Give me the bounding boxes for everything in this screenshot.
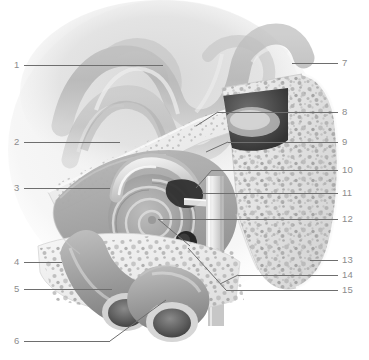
leader-angle-10: [196, 170, 212, 188]
angled-leader-lines: [0, 0, 369, 360]
leader-angle-14: [220, 275, 238, 284]
leader-angle-9: [206, 142, 228, 152]
anatomical-figure: 123456789101112131415: [0, 0, 369, 360]
leader-angle-12: [158, 219, 190, 246]
leader-angle-6: [110, 300, 166, 341]
leader-angle-15: [188, 248, 226, 290]
callout-label-layer: 123456789101112131415: [0, 0, 369, 360]
leader-angle-8: [196, 112, 218, 126]
